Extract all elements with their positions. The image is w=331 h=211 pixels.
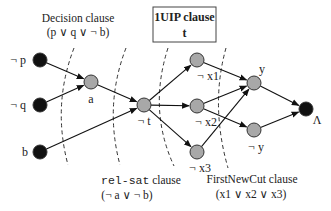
edge-nx2-to-y <box>204 86 247 103</box>
node-nx3: ¬ x3 <box>189 145 211 175</box>
node-label: ¬ p <box>10 53 26 67</box>
decision-cut <box>61 48 74 165</box>
firstnewcut-clause-title: FirstNewCut clause <box>206 173 297 185</box>
node-circle <box>33 53 47 67</box>
firstnewcut-cut <box>218 48 228 168</box>
node-nt: ¬ t <box>137 98 151 128</box>
node-nx1: ¬ x1 <box>190 53 219 83</box>
decision-clause-title: Decision clause <box>42 12 115 24</box>
node-label: y <box>259 62 265 76</box>
node-circle <box>33 145 47 159</box>
node-y: y <box>247 62 265 90</box>
node-label: ¬ y <box>248 140 264 154</box>
edge-nt-to-nx1 <box>149 65 191 100</box>
node-nq: ¬ q <box>10 98 47 112</box>
node-label: Λ <box>313 113 322 127</box>
node-label: ¬ t <box>137 114 151 128</box>
node-circle <box>190 53 204 67</box>
nodes: ¬ p¬ qba¬ t¬ x1¬ x2¬ x3y¬ yΛ <box>10 53 321 175</box>
node-circle <box>33 98 47 112</box>
firstnewcut-clause-formula: (x1 ∨ x2 ∨ x3) <box>216 188 287 201</box>
node-label: a <box>88 92 94 106</box>
edge-nq-to-a <box>46 85 83 102</box>
node-np: ¬ p <box>10 53 47 67</box>
node-label: ¬ x2 <box>195 115 217 129</box>
edge-y-to-lambda <box>260 86 299 105</box>
relsat-clause-formula: (¬ a ∨ ¬ b) <box>101 189 153 202</box>
node-nx2: ¬ x2 <box>190 99 217 129</box>
node-circle <box>190 99 204 113</box>
node-circle <box>247 123 261 137</box>
relsat-mono-part: rel-sat <box>101 174 149 187</box>
relsat-rest-part: clause <box>149 174 181 186</box>
uip-cut <box>159 48 174 166</box>
edge-nt-to-nx2 <box>151 105 189 106</box>
relsat-clause-title: rel-sat clause <box>101 174 181 187</box>
edge-nt-to-nx3 <box>149 110 191 147</box>
node-ny: ¬ y <box>247 123 264 154</box>
node-b: b <box>22 145 47 159</box>
node-label: b <box>22 145 28 159</box>
decision-clause-formula: (p ∨ q ∨ ¬ b) <box>47 26 110 39</box>
edge-ny-to-lambda <box>261 112 299 127</box>
node-circle <box>84 75 98 89</box>
node-a: a <box>84 75 98 106</box>
uip-clause-literal: t <box>183 26 187 40</box>
edge-b-to-nt <box>46 108 136 149</box>
node-label: ¬ x3 <box>189 161 211 175</box>
node-circle <box>247 76 261 90</box>
relsat-cut <box>113 48 126 165</box>
edge-a-to-nt <box>97 85 136 102</box>
node-label: ¬ q <box>10 98 26 112</box>
node-circle <box>190 145 204 159</box>
node-circle <box>137 98 151 112</box>
implication-graph-diagram: 1UIP clause t Decision clause (p ∨ q ∨ ¬… <box>0 0 331 211</box>
diagram-canvas: 1UIP clause t Decision clause (p ∨ q ∨ ¬… <box>0 0 331 211</box>
node-circle <box>299 102 313 116</box>
uip-clause-title: 1UIP clause <box>154 10 215 24</box>
node-label: ¬ x1 <box>197 69 219 83</box>
uip-clause-box: 1UIP clause t <box>153 7 216 42</box>
node-lambda: Λ <box>299 102 322 127</box>
